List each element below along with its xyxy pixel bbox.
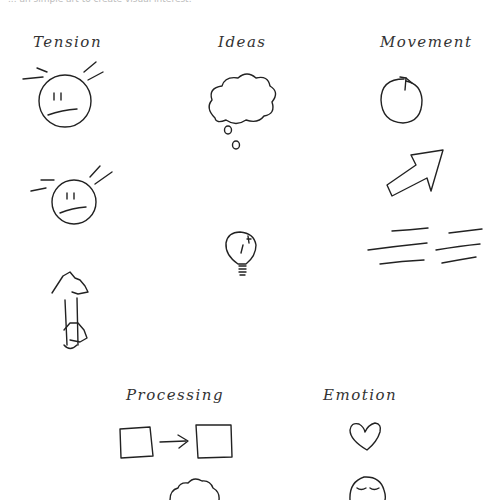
box-arrow-box-icon bbox=[120, 425, 232, 458]
calm-face-icon bbox=[350, 477, 385, 500]
heart-icon bbox=[350, 423, 380, 450]
hands-pulling-bar-icon bbox=[52, 272, 88, 349]
circular-arrow-icon bbox=[381, 77, 422, 123]
tense-face-small-icon bbox=[31, 166, 112, 224]
tense-face-icon bbox=[23, 62, 103, 127]
light-bulb-icon bbox=[226, 232, 256, 275]
diagonal-arrow-icon bbox=[387, 150, 443, 196]
thought-cloud-icon bbox=[209, 74, 275, 149]
speed-lines-icon bbox=[368, 228, 482, 264]
cloud-icon bbox=[170, 479, 219, 500]
